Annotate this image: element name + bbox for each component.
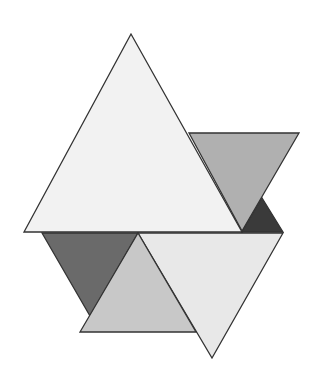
triangle-diagram: [0, 0, 318, 380]
